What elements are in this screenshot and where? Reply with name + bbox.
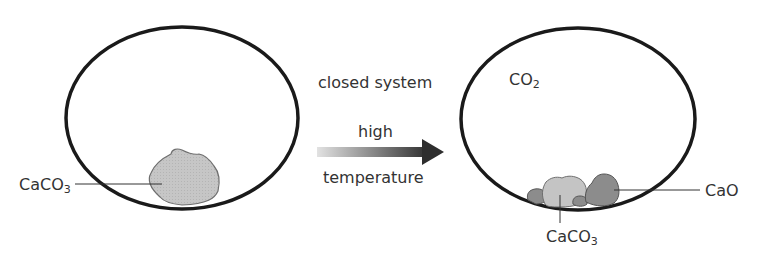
arrow-mid-text: high: [358, 124, 393, 140]
arrow-top-text: closed system: [318, 75, 432, 91]
cao-label: CaO: [705, 183, 739, 199]
left-container: [66, 27, 298, 209]
arrow-bottom-text: temperature: [323, 170, 424, 186]
left-caco3-label: CaCO3: [19, 177, 71, 193]
co2-label: CO2: [509, 72, 540, 88]
right-caco3-label: CaCO3: [546, 229, 598, 245]
reaction-arrow: [317, 139, 444, 165]
left-caco3-lump: [149, 149, 219, 205]
right-container: [461, 28, 700, 223]
cao-lump-large: [585, 174, 619, 206]
